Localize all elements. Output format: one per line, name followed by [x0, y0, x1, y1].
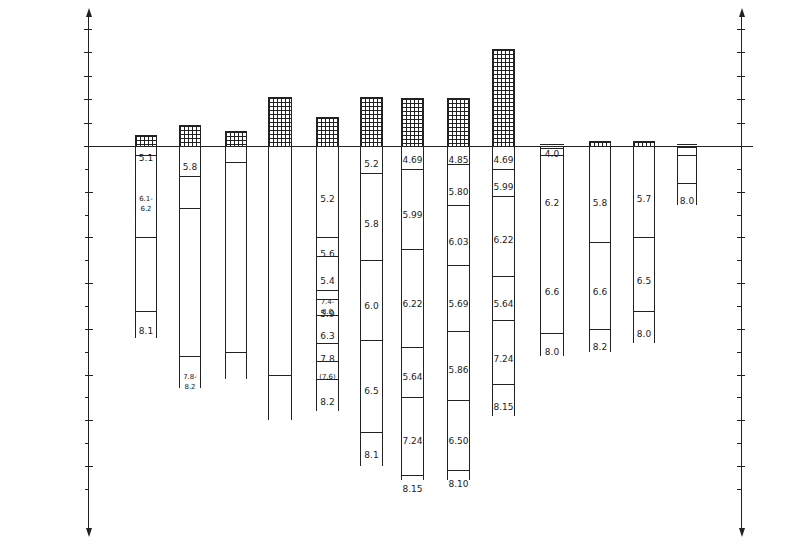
right-depth-minor-tick — [737, 169, 741, 170]
velocity-label: 8.0 — [678, 196, 696, 206]
right-depth-minor-tick — [737, 329, 745, 330]
velocity-label: 6.22 — [402, 299, 423, 309]
elevation-hatch-block — [492, 49, 515, 147]
crustal-column: 5.25.65.47.4-8.05.96.37.8(7.6)8.2 — [316, 146, 339, 411]
velocity-label: (7.6) — [317, 372, 338, 382]
crustal-column: 5.87.8-8.2 — [179, 146, 201, 388]
velocity-label: 6.2 — [541, 198, 563, 208]
right-depth-minor-tick — [737, 283, 745, 284]
velocity-label: 5.9 — [317, 309, 338, 319]
crustal-column: 8.0 — [677, 146, 697, 205]
velocity-label: 5.8 — [590, 198, 610, 208]
elevation-hatch-block — [447, 98, 470, 147]
velocity-label: 8.0 — [634, 329, 654, 339]
layer-boundary — [402, 475, 423, 476]
velocity-label: 6.5 — [361, 386, 382, 396]
right-axis-arrow-up-icon — [739, 8, 745, 17]
layer-boundary — [180, 176, 200, 177]
elevation-hatch-block — [316, 117, 339, 147]
right-elevation-tick — [737, 146, 745, 147]
layer-boundary — [180, 356, 200, 357]
velocity-label: 5.99 — [402, 210, 423, 220]
depth-minor-tick — [85, 192, 93, 193]
velocity-column-diagram: 5.16.1-6.28.15.87.8-8.25.25.65.47.4-8.05… — [0, 0, 788, 544]
left-axis-line — [88, 14, 89, 534]
right-depth-minor-tick — [737, 489, 741, 490]
velocity-label: 5.1 — [136, 153, 156, 163]
layer-boundary — [493, 196, 514, 197]
depth-minor-tick — [85, 352, 89, 353]
velocity-label: 7.8-8.2 — [180, 372, 200, 392]
crustal-column — [225, 146, 247, 379]
velocity-label: 8.1 — [361, 450, 382, 460]
depth-minor-tick — [85, 397, 89, 398]
layer-boundary — [402, 347, 423, 348]
velocity-label: 5.2 — [361, 159, 382, 169]
layer-boundary — [136, 311, 156, 312]
velocity-label: 6.0 — [361, 301, 382, 311]
layer-boundary — [448, 470, 469, 471]
velocity-label: 5.8 — [180, 162, 200, 172]
velocity-label: 4.85 — [448, 155, 469, 165]
depth-minor-tick — [85, 283, 93, 284]
layer-boundary — [493, 169, 514, 170]
velocity-label: 8.15 — [402, 484, 423, 494]
right-depth-minor-tick — [737, 215, 741, 216]
elevation-hatch-block — [179, 125, 201, 147]
right-depth-minor-tick — [737, 237, 745, 238]
crustal-column — [268, 146, 292, 420]
right-depth-minor-tick — [737, 420, 745, 421]
velocity-label: 6.5 — [634, 276, 654, 286]
velocity-label: 4.69 — [493, 155, 514, 165]
velocity-label: 8.2 — [590, 342, 610, 352]
velocity-label: 6.3 — [317, 331, 338, 341]
crustal-column: 5.86.68.2 — [589, 146, 611, 352]
elevation-tick — [84, 146, 92, 147]
velocity-label: 6.50 — [448, 436, 469, 446]
velocity-label: 6.22 — [493, 235, 514, 245]
velocity-label: 6.6 — [541, 287, 563, 297]
layer-boundary — [180, 208, 200, 209]
velocity-label: 5.2 — [317, 194, 338, 204]
crustal-column: 5.76.58.0 — [633, 146, 655, 343]
right-depth-minor-tick — [737, 192, 745, 193]
elevation-tick — [84, 29, 92, 30]
layer-boundary — [678, 147, 696, 148]
velocity-label: 5.86 — [448, 365, 469, 375]
crustal-column: 5.25.86.06.58.1 — [360, 146, 383, 466]
velocity-label: 8.0 — [541, 347, 563, 357]
layer-boundary — [269, 375, 291, 376]
column-cap — [540, 144, 564, 145]
layer-boundary — [402, 397, 423, 398]
layer-boundary — [493, 320, 514, 321]
right-axis-arrow-down-icon — [739, 528, 745, 537]
depth-minor-tick — [85, 237, 93, 238]
velocity-label: 8.1 — [136, 326, 156, 336]
depth-minor-tick — [85, 489, 89, 490]
right-elevation-tick — [737, 29, 745, 30]
layer-boundary — [226, 162, 246, 163]
velocity-label: 8.10 — [448, 479, 469, 489]
layer-boundary — [317, 290, 338, 291]
crustal-column: 4.695.996.225.647.248.15 — [492, 146, 515, 416]
velocity-label: 7.24 — [402, 436, 423, 446]
elevation-tick — [84, 99, 92, 100]
velocity-label: 7.8 — [317, 354, 338, 364]
right-elevation-tick — [737, 99, 745, 100]
layer-boundary — [541, 333, 563, 334]
layer-boundary — [590, 329, 610, 330]
layer-boundary — [448, 400, 469, 401]
right-depth-minor-tick — [737, 443, 741, 444]
velocity-label: 7.24 — [493, 354, 514, 364]
left-axis-arrow-down-icon — [86, 528, 92, 537]
velocity-label: 5.99 — [493, 182, 514, 192]
layer-boundary — [361, 432, 382, 433]
velocity-label: 5.69 — [448, 299, 469, 309]
elevation-hatch-block — [401, 98, 424, 147]
right-elevation-tick — [737, 123, 745, 124]
crustal-column: 4.695.996.225.647.248.15 — [401, 146, 424, 480]
layer-boundary — [361, 173, 382, 174]
depth-minor-tick — [85, 375, 93, 376]
right-depth-minor-tick — [737, 260, 741, 261]
depth-minor-tick — [85, 260, 89, 261]
